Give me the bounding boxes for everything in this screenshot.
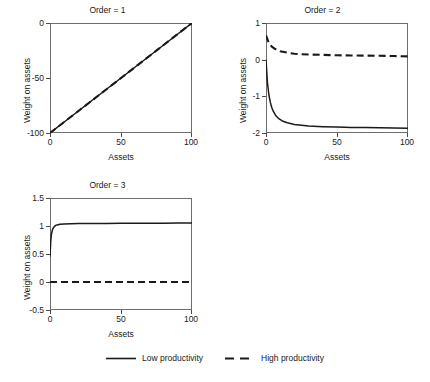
xtick-label: 100 (184, 137, 198, 147)
plot-lines (266, 23, 408, 133)
legend-item-low-productivity: Low productivity (106, 353, 203, 363)
xtick-label: 0 (48, 314, 53, 324)
solid-line-icon (106, 354, 136, 363)
xtick-label: 50 (332, 137, 341, 147)
ytick-label: -2 (230, 128, 260, 138)
legend-label: High productivity (261, 353, 324, 363)
series-high-productivity-line (266, 36, 408, 57)
ytick-label: 0 (14, 18, 44, 28)
ytick-mark (46, 282, 50, 283)
chart-panel-order-1: Order = 1 0 -50 -100 0 50 100 Assets Wei… (0, 0, 215, 180)
ytick-mark (46, 254, 50, 255)
series-low-productivity-line (50, 223, 192, 257)
series-low-productivity-line (50, 23, 192, 133)
ytick-mark (262, 23, 266, 24)
chart-panel-order-3: Order = 3 1.5 1 0.5 0 -0.5 0 50 100 Asse… (0, 175, 215, 355)
plot-lines (50, 198, 192, 310)
ytick-label: -0.5 (12, 305, 44, 315)
ytick-mark (46, 198, 50, 199)
x-axis-label: Assets (108, 152, 134, 162)
y-axis-label: Weight on assets (22, 58, 32, 123)
x-axis-label: Assets (324, 152, 350, 162)
xtick-label: 100 (400, 137, 414, 147)
panel-title: Order = 1 (0, 5, 215, 15)
ytick-mark (262, 96, 266, 97)
x-axis-label: Assets (108, 329, 134, 339)
ytick-label: 1.5 (12, 193, 44, 203)
ytick-label: 1 (12, 221, 44, 231)
ytick-mark (46, 78, 50, 79)
dashed-line-icon (225, 354, 255, 363)
xtick-label: 0 (48, 137, 53, 147)
legend-label: Low productivity (142, 353, 203, 363)
panel-title: Order = 3 (0, 180, 215, 190)
legend-item-high-productivity: High productivity (225, 353, 324, 363)
y-axis-label: Weight on assets (238, 58, 248, 123)
xtick-label: 50 (116, 137, 125, 147)
xtick-label: 100 (184, 314, 198, 324)
ytick-label: 1 (230, 18, 260, 28)
panel-title: Order = 2 (215, 5, 430, 15)
chart-panel-order-2: Order = 2 1 0 -1 -2 0 50 100 Assets Weig… (215, 0, 430, 180)
xtick-label: 0 (264, 137, 269, 147)
ytick-mark (46, 23, 50, 24)
y-axis-label: Weight on assets (22, 235, 32, 300)
chart-legend: Low productivity High productivity (0, 353, 430, 363)
ytick-label: -100 (14, 128, 44, 138)
ytick-mark (262, 60, 266, 61)
xtick-label: 50 (116, 314, 125, 324)
ytick-mark (46, 226, 50, 227)
series-low-productivity-line (266, 60, 408, 129)
plot-lines (50, 23, 192, 133)
